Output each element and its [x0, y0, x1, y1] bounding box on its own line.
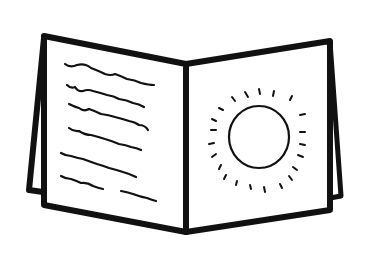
sun-rays: [209, 89, 305, 192]
text-lines: [61, 64, 156, 201]
open-book-drawing: [0, 0, 370, 260]
illustration: open book / greeting card line drawing: [0, 0, 370, 260]
right-page: [186, 41, 330, 232]
sun-icon: [209, 89, 305, 192]
